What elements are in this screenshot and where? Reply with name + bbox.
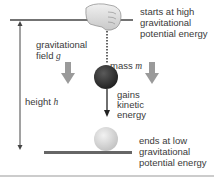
ground-line (44, 151, 132, 154)
height-label: height h (25, 96, 58, 108)
start-line-1: starts at high (140, 6, 208, 17)
field-line-2: field g (36, 50, 87, 62)
field-line-1: gravitational (36, 39, 87, 50)
hand-icon (86, 4, 121, 30)
start-line-2: gravitational (140, 17, 208, 28)
height-symbol: h (54, 97, 59, 107)
end-line-3: potential energy (139, 157, 207, 168)
gains-line-3: energy (117, 110, 146, 120)
field-arrow-right (145, 62, 159, 84)
field-label: gravitational field g (36, 39, 87, 62)
field-symbol: g (56, 51, 61, 61)
field-arrow-left (61, 62, 75, 84)
mass-ball-bottom (94, 127, 118, 151)
height-arrow (18, 21, 23, 150)
mass-word: mass (110, 60, 133, 71)
end-label: ends at low gravitational potential ener… (139, 135, 207, 168)
end-line-1: ends at low (139, 135, 207, 146)
mass-label: mass m (110, 60, 142, 72)
gains-label: gains kinetic energy (117, 90, 146, 120)
field-word: field (36, 50, 53, 61)
mass-symbol: m (135, 61, 142, 71)
height-word: height (25, 96, 51, 107)
start-line-3: potential energy (140, 28, 208, 39)
fall-arrow (104, 89, 110, 117)
end-line-2: gravitational (139, 146, 207, 157)
start-label: starts at high gravitational potential e… (140, 6, 208, 39)
